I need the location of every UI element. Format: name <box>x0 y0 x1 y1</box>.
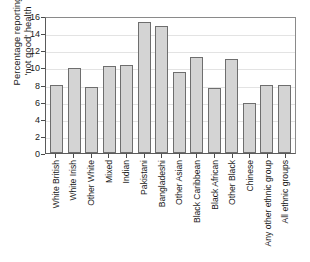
bar <box>138 22 151 153</box>
x-axis-tick-label: Any other ethnic group <box>263 160 272 246</box>
x-axis-tick-mark <box>55 154 56 158</box>
x-axis-label-cell: Pakistani <box>138 160 151 260</box>
y-axis-tick-label: 4 <box>35 115 40 124</box>
bar <box>190 57 203 153</box>
bar-chart: Percentage reporting 'not good' health 0… <box>0 0 310 262</box>
x-axis-tick-label: White British <box>51 160 60 208</box>
x-axis-tick-label: Indian <box>122 160 131 183</box>
x-axis-label-cell: Chinese <box>243 160 256 260</box>
y-axis-tick-label: 8 <box>35 81 40 90</box>
x-axis-tick-labels: White BritishWhite IrishOther WhiteMixed… <box>45 160 296 260</box>
bar <box>243 103 256 153</box>
x-axis-tick-mark <box>214 154 215 158</box>
x-axis-tick-label: Chinese <box>245 160 254 192</box>
x-axis-tick-mark <box>232 154 233 158</box>
y-axis-tick-label: 6 <box>35 98 40 107</box>
bar <box>50 85 63 154</box>
x-axis-label-cell: Other White <box>85 160 98 260</box>
x-axis-label-cell: Black Caribbean <box>190 160 203 260</box>
x-axis-label-cell: White Irish <box>67 160 80 260</box>
x-axis-tick-mark <box>196 154 197 158</box>
y-axis-title-line1: Percentage reporting <box>11 0 22 109</box>
x-axis-label-cell: Mixed <box>102 160 115 260</box>
x-axis-tick-mark <box>249 154 250 158</box>
x-axis-label-cell: White British <box>49 160 62 260</box>
y-axis-tick-label: 2 <box>35 132 40 141</box>
x-axis-tick-label: White Irish <box>69 160 78 201</box>
x-axis-label-cell: Other Black <box>226 160 239 260</box>
bar <box>85 87 98 153</box>
x-axis-label-cell: All ethnic groups <box>279 160 292 260</box>
x-axis-tick-mark <box>73 154 74 158</box>
bar <box>260 85 273 154</box>
bar <box>120 65 133 153</box>
x-axis-tick-label: Bangladeshi <box>157 160 166 207</box>
bar-series <box>46 18 295 153</box>
bar <box>103 66 116 153</box>
x-axis-tick-label: Pakistani <box>140 160 149 195</box>
x-axis-tick-mark <box>285 154 286 158</box>
x-axis-tick-mark <box>126 154 127 158</box>
x-axis-tick-mark <box>108 154 109 158</box>
x-axis-tick-label: Black African <box>210 160 219 210</box>
chart-title-clipped <box>45 0 296 7</box>
x-axis-tick-label: Other Black <box>228 160 237 205</box>
x-axis-tick-mark <box>267 154 268 158</box>
x-axis-tick-mark <box>91 154 92 158</box>
y-axis-tick-label: 16 <box>30 13 40 22</box>
y-axis-tick-label: 0 <box>35 150 40 159</box>
y-axis-tick-label: 14 <box>30 30 40 39</box>
x-axis-label-cell: Indian <box>120 160 133 260</box>
x-axis-tick-label: All ethnic groups <box>281 160 290 224</box>
x-axis-tick-mark <box>144 154 145 158</box>
bar <box>278 85 291 154</box>
x-axis-label-cell: Black African <box>208 160 221 260</box>
bar <box>68 68 81 153</box>
x-axis-label-cell: Any other ethnic group <box>261 160 274 260</box>
x-axis-tick-label: Black Caribbean <box>192 160 201 223</box>
y-axis-tick-label: 12 <box>30 47 40 56</box>
bar <box>225 59 238 153</box>
bar <box>173 72 186 153</box>
x-axis-tick-label: Other White <box>87 160 96 206</box>
x-axis-tick-label: Other Asian <box>175 160 184 205</box>
bar <box>208 88 221 153</box>
bar <box>155 26 168 153</box>
x-axis-tick-marks <box>45 154 296 159</box>
x-axis-label-cell: Other Asian <box>173 160 186 260</box>
plot-area <box>45 17 296 154</box>
x-axis-tick-label: Mixed <box>104 160 113 183</box>
y-axis-tick-labels: 0246810121416 <box>26 17 40 154</box>
x-axis-tick-mark <box>179 154 180 158</box>
y-axis-tick-label: 10 <box>30 64 40 73</box>
x-axis-label-cell: Bangladeshi <box>155 160 168 260</box>
x-axis-tick-mark <box>161 154 162 158</box>
